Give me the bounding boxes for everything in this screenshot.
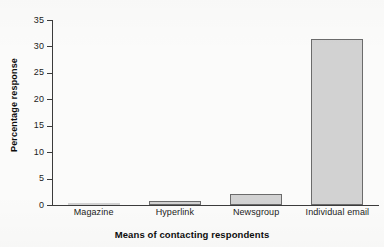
y-axis-tick-label-text: 35 [20,16,44,25]
bar-slot [216,20,297,205]
bar [230,194,282,205]
y-axis-tick-label-text: 30 [20,42,44,51]
y-axis-tick-label: 25 [20,68,44,77]
y-axis-tick-label: 20 [20,95,44,104]
y-axis-tick-label: 35 [20,16,44,25]
bar-slot [53,20,134,205]
x-axis-category-label: Newsgroup [216,207,297,218]
y-axis-tick-label-text: 25 [20,68,44,77]
y-axis-tick-label: 0 [20,201,44,210]
x-axis-line [52,205,379,206]
y-axis-tick-label: 15 [20,121,44,130]
bar-slot [297,20,378,205]
bar [149,201,201,205]
x-axis-title: Means of contacting respondents [0,229,384,240]
x-axis-category-label: Individual email [297,207,378,218]
y-axis-tick-label-text: 20 [20,95,44,104]
chart-screenshot: Percentage response 05101520253035 Magaz… [0,0,384,247]
x-axis-category-label: Hyperlink [134,207,215,218]
y-axis-tick-label-text: 0 [20,201,44,210]
y-axis-tick-label-text: 15 [20,121,44,130]
y-axis-tick-label: 30 [20,42,44,51]
y-axis-title: Percentage response [9,45,19,165]
x-axis-category-label: Magazine [53,207,134,218]
bar [68,203,120,205]
bar [311,39,363,205]
plot-area [53,20,378,205]
y-axis-tick-label: 10 [20,148,44,157]
y-axis-tick-label-text: 10 [20,148,44,157]
y-axis-tick-label-text: 5 [20,174,44,183]
bar-slot [134,20,215,205]
y-axis-tick-label: 5 [20,174,44,183]
